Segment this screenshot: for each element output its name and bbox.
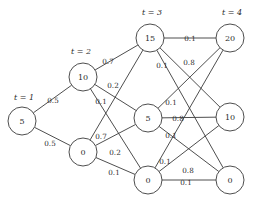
edge-weight-label: 0.7 [95,132,107,141]
edge-weight-label: 0.7 [102,57,114,66]
edge-weight-label: 0.1 [165,98,176,107]
node-value-label: 15 [145,34,155,43]
edge-weight-label: 0.8 [172,114,184,123]
graph-edge [162,117,216,118]
diagram-canvas: 5100155020100 0.50.50.70.20.10.70.20.10.… [0,0,257,202]
edge-weight-label: 0.1 [156,61,167,70]
stage-label: t = 2 [71,47,91,56]
stage-label: t = 1 [14,93,34,102]
graph-node[interactable]: 0 [134,166,162,194]
edge-weight-label: 0.1 [108,168,119,177]
graph-node[interactable]: 15 [136,24,164,52]
graph-node[interactable]: 0 [69,138,97,166]
node-value-label: 10 [78,73,88,82]
node-value-label: 5 [145,114,150,123]
edge-weight-label: 0.1 [165,131,176,140]
node-value-label: 0 [80,148,85,157]
graph-node[interactable]: 5 [134,104,162,132]
edge-weight-label: 0.2 [107,81,118,90]
stage-label: t = 3 [142,8,162,17]
graph-node[interactable]: 0 [216,166,244,194]
graph-node[interactable]: 20 [216,24,244,52]
edge-weight-label: 0.5 [47,96,59,105]
edge-weight-label: 0.2 [109,148,120,157]
edge-weight-label: 0.1 [184,34,195,43]
edge-weight-label: 0.1 [159,157,170,166]
graph-node[interactable]: 10 [216,103,244,131]
edge-weight-label: 0.8 [182,166,194,175]
trellis-graph: 5100155020100 0.50.50.70.20.10.70.20.10.… [0,0,257,202]
edge-weight-label: 0.8 [183,58,195,67]
node-value-label: 5 [19,117,24,126]
edge-weight-label: 0.1 [180,178,191,187]
graph-node[interactable]: 10 [69,63,97,91]
graph-edge [90,50,143,140]
stage-label: t = 4 [222,8,242,17]
node-value-label: 20 [225,34,235,43]
node-value-label: 10 [225,113,235,122]
edge-labels-layer: 0.50.50.70.20.10.70.20.10.10.10.80.10.80… [44,34,195,187]
graph-node[interactable]: 5 [8,107,36,135]
nodes-layer: 5100155020100 [8,24,244,194]
edge-weight-label: 0.5 [44,139,56,148]
node-value-label: 0 [227,176,232,185]
edge-weight-label: 0.1 [95,97,106,106]
stage-labels-layer: t = 1t = 2t = 3t = 4 [14,8,242,102]
node-value-label: 0 [145,176,150,185]
